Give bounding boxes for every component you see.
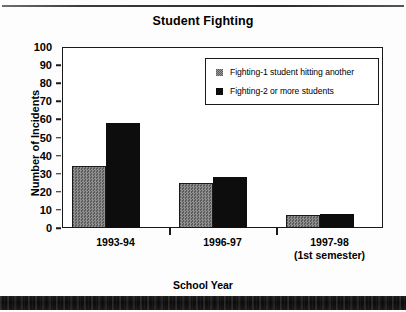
- bar-series1-1997-98: [286, 215, 320, 228]
- legend-label-series-2: Fighting-2 or more students: [230, 86, 334, 96]
- x-axis-tick-mark: [276, 228, 278, 235]
- legend-item-fighting-1: Fighting-1 student hitting another: [216, 67, 354, 77]
- x-axis-category-label-main: 1997-98: [310, 236, 349, 248]
- y-axis-tick-mark: [56, 119, 61, 121]
- y-axis-tick-label: 40: [40, 150, 52, 162]
- y-axis-tick-mark: [56, 101, 61, 103]
- legend-swatch-icon-series-1: [216, 69, 223, 76]
- y-axis-tick-mark: [56, 64, 61, 66]
- x-axis-category-sublabel: (1st semester): [276, 249, 383, 262]
- y-axis-tick-mark: [56, 137, 61, 139]
- y-axis-tick-mark: [56, 82, 61, 84]
- bar-series2-1997-98: [320, 214, 354, 228]
- y-axis-tick-label: 50: [40, 132, 52, 144]
- x-axis-category-label: 1997-98(1st semester): [276, 236, 383, 262]
- y-axis-tick-label: 90: [40, 59, 52, 71]
- y-axis-tick-label: 60: [40, 113, 52, 125]
- y-axis-tick-mark: [56, 209, 61, 211]
- bar-series1-1993-94: [72, 166, 106, 228]
- y-axis-tick-mark: [56, 173, 61, 175]
- y-axis-tick-label: 10: [40, 204, 52, 216]
- scan-artifact-bottom-band: [0, 296, 406, 310]
- x-axis-category-label: 1993-94: [62, 236, 169, 249]
- y-axis-title: Number of Incidents: [29, 48, 41, 238]
- y-axis-tick-label: 30: [40, 168, 52, 180]
- legend-item-fighting-2: Fighting-2 or more students: [216, 86, 334, 96]
- y-axis-tick-label: 20: [40, 186, 52, 198]
- x-axis-category-label-main: 1996-97: [203, 236, 242, 248]
- x-axis-tick-mark: [169, 228, 171, 235]
- x-axis-title: School Year: [0, 279, 406, 291]
- y-axis-tick-label: 80: [40, 77, 52, 89]
- y-axis-tick-mark: [56, 227, 61, 229]
- x-axis-category-label: 1996-97: [169, 236, 276, 249]
- y-axis-tick-mark: [56, 155, 61, 157]
- bar-series1-1996-97: [179, 183, 213, 228]
- y-axis-tick-label: 70: [40, 95, 52, 107]
- y-axis-tick-mark: [56, 191, 61, 193]
- legend-label-series-1: Fighting-1 student hitting another: [230, 67, 354, 77]
- x-axis-category-label-main: 1993-94: [96, 236, 135, 248]
- bar-series2-1996-97: [213, 177, 247, 228]
- legend-swatch-icon-series-2: [216, 88, 223, 95]
- y-axis-tick-label: 0: [46, 222, 52, 234]
- scan-artifact-top-line: [2, 5, 404, 7]
- chart-legend: Fighting-1 student hitting another Fight…: [205, 58, 379, 105]
- chart-page: Student Fighting 0102030405060708090100 …: [0, 0, 406, 312]
- chart-title: Student Fighting: [0, 14, 406, 28]
- bar-series2-1993-94: [106, 123, 140, 228]
